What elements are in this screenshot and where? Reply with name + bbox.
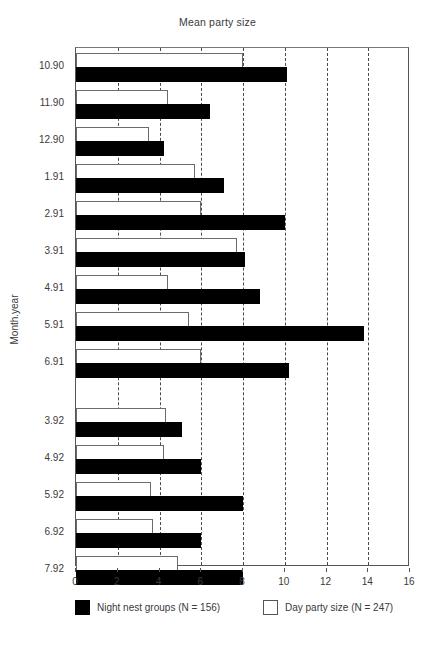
x-tick-label-8: 8 xyxy=(239,576,245,587)
bar-night-3.91 xyxy=(76,252,245,267)
y-tick-label-3.92: 3.92 xyxy=(0,416,64,426)
x-tick-label-16: 16 xyxy=(403,576,414,587)
plot-area xyxy=(75,47,409,566)
x-tick-mark-4 xyxy=(159,568,160,572)
bar-night-4.91 xyxy=(76,289,260,304)
legend-item-day-party-size: Day party size (N = 247) xyxy=(263,600,393,615)
y-axis-tick-labels: 10.9011.9012.901.912.913.914.915.916.913… xyxy=(0,0,72,655)
bar-row xyxy=(76,53,408,86)
legend-label-night: Night nest groups (N = 156) xyxy=(97,602,220,613)
bar-row xyxy=(76,238,408,271)
bar-day-6.91 xyxy=(76,349,201,364)
bar-night-3.92 xyxy=(76,422,182,437)
legend-item-night-nest-groups: Night nest groups (N = 156) xyxy=(75,600,220,615)
x-tick-mark-0 xyxy=(75,568,76,572)
bar-night-5.91 xyxy=(76,326,364,341)
y-tick-label-11.90: 11.90 xyxy=(0,98,64,108)
y-tick-label-6.91: 6.91 xyxy=(0,357,64,367)
x-tick-label-2: 2 xyxy=(114,576,120,587)
bar-day-2.91 xyxy=(76,201,201,216)
y-tick-label-5.91: 5.91 xyxy=(0,320,64,330)
bar-row xyxy=(76,445,408,478)
bar-row xyxy=(76,482,408,515)
bar-row xyxy=(76,312,408,345)
bar-day-4.91 xyxy=(76,275,168,290)
bar-row xyxy=(76,201,408,234)
bar-night-11.90 xyxy=(76,104,210,119)
chart-legend: Night nest groups (N = 156) Day party si… xyxy=(0,600,435,626)
x-tick-mark-6 xyxy=(200,568,201,572)
bar-day-5.91 xyxy=(76,312,189,327)
bar-day-4.92 xyxy=(76,445,164,460)
legend-label-day: Day party size (N = 247) xyxy=(285,602,393,613)
legend-swatch-day-icon xyxy=(263,600,278,615)
bar-day-12.90 xyxy=(76,127,149,142)
bar-night-2.91 xyxy=(76,215,285,230)
bar-night-12.90 xyxy=(76,141,164,156)
y-tick-label-4.91: 4.91 xyxy=(0,283,64,293)
bar-day-5.92 xyxy=(76,482,151,497)
bar-night-6.91 xyxy=(76,363,289,378)
y-tick-label-12.90: 12.90 xyxy=(0,135,64,145)
y-tick-label-1.91: 1.91 xyxy=(0,172,64,182)
bar-day-10.90 xyxy=(76,53,243,68)
bar-rows xyxy=(76,48,408,565)
y-tick-label-4.92: 4.92 xyxy=(0,453,64,463)
y-tick-label-6.92: 6.92 xyxy=(0,527,64,537)
x-tick-label-14: 14 xyxy=(362,576,373,587)
legend-swatch-night-icon xyxy=(75,600,90,615)
x-tick-mark-2 xyxy=(117,568,118,572)
bar-row xyxy=(76,164,408,197)
x-tick-label-0: 0 xyxy=(72,576,78,587)
bar-day-1.91 xyxy=(76,164,195,179)
bar-day-11.90 xyxy=(76,90,168,105)
x-tick-mark-12 xyxy=(326,568,327,572)
bar-row xyxy=(76,519,408,552)
bar-row xyxy=(76,275,408,308)
bar-day-6.92 xyxy=(76,519,153,534)
x-tick-label-12: 12 xyxy=(320,576,331,587)
bar-row xyxy=(76,349,408,382)
y-tick-label-3.91: 3.91 xyxy=(0,246,64,256)
y-tick-label-7.92: 7.92 xyxy=(0,564,64,574)
y-tick-label-5.92: 5.92 xyxy=(0,490,64,500)
x-tick-label-4: 4 xyxy=(156,576,162,587)
bar-night-1.91 xyxy=(76,178,224,193)
x-axis-tick-labels: 0246810121416 xyxy=(75,568,409,590)
bar-night-5.92 xyxy=(76,496,243,511)
bar-row xyxy=(76,127,408,160)
x-tick-mark-14 xyxy=(367,568,368,572)
x-tick-mark-16 xyxy=(409,568,410,572)
bar-row xyxy=(76,408,408,441)
bar-row xyxy=(76,90,408,123)
x-tick-mark-10 xyxy=(284,568,285,572)
bar-night-4.92 xyxy=(76,459,201,474)
y-tick-label-2.91: 2.91 xyxy=(0,209,64,219)
bar-night-6.92 xyxy=(76,533,201,548)
y-tick-label-10.90: 10.90 xyxy=(0,61,64,71)
bar-chart: Mean party size Month.year 10.9011.9012.… xyxy=(0,0,435,655)
bar-day-3.91 xyxy=(76,238,237,253)
x-tick-mark-8 xyxy=(242,568,243,572)
x-tick-label-6: 6 xyxy=(197,576,203,587)
bar-day-3.92 xyxy=(76,408,166,423)
bar-night-10.90 xyxy=(76,67,287,82)
x-tick-label-10: 10 xyxy=(278,576,289,587)
